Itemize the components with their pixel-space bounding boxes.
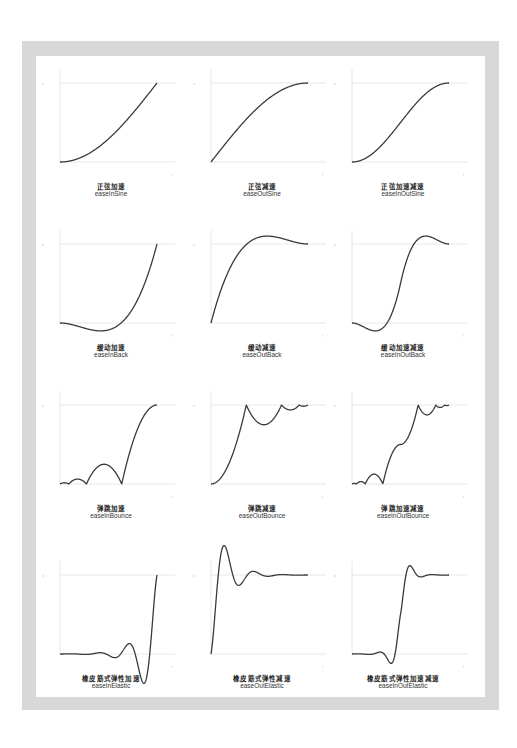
easing-curve xyxy=(211,236,308,323)
chart-plot: xt xyxy=(328,214,478,344)
x-axis-label: t xyxy=(463,173,464,177)
gallery-frame: xt正弦加速easeInSinext正弦减速easeOutSinext正弦加速减… xyxy=(22,41,499,710)
easing-curve xyxy=(211,405,308,484)
easing-curve xyxy=(211,83,308,162)
y-axis-label: x xyxy=(42,574,44,578)
x-axis-label: t xyxy=(322,173,323,177)
x-axis-label: t xyxy=(322,334,323,338)
chart-title-en: easeInOutSine xyxy=(328,190,478,197)
x-axis-label: t xyxy=(171,665,172,669)
chart-title-en: easeInSine xyxy=(36,190,186,197)
chart-title-en: easeInOutBack xyxy=(328,351,478,358)
chart-plot: xt xyxy=(187,545,337,675)
y-axis-label: x xyxy=(193,574,195,578)
y-axis-label: x xyxy=(193,404,195,408)
x-axis-label: t xyxy=(463,495,464,499)
y-axis-label: x xyxy=(42,404,44,408)
gallery-panel: xt正弦加速easeInSinext正弦减速easeOutSinext正弦加速减… xyxy=(36,56,485,697)
chart-title-en: easeInElastic xyxy=(36,682,186,689)
easing-curve xyxy=(211,546,308,654)
x-axis-label: t xyxy=(463,334,464,338)
x-axis-label: t xyxy=(171,334,172,338)
chart-plot: xt xyxy=(187,53,337,183)
chart-title-en: easeOutElastic xyxy=(187,682,337,689)
y-axis-label: x xyxy=(193,243,195,247)
chart-plot: xt xyxy=(328,53,478,183)
chart-title-en: easeInBounce xyxy=(36,512,186,519)
y-axis-label: x xyxy=(334,404,336,408)
chart-title-en: easeInBack xyxy=(36,351,186,358)
easing-curve xyxy=(352,236,449,331)
chart-title-en: easeOutSine xyxy=(187,190,337,197)
y-axis-label: x xyxy=(334,574,336,578)
chart-plot: xt xyxy=(36,545,186,675)
chart-plot: xt xyxy=(187,214,337,344)
x-axis-label: t xyxy=(322,495,323,499)
x-axis-label: t xyxy=(322,665,323,669)
easing-curve xyxy=(60,405,157,484)
x-axis-label: t xyxy=(171,495,172,499)
easing-curve xyxy=(352,83,449,162)
chart-title-en: easeInOutBounce xyxy=(328,512,478,519)
y-axis-label: x xyxy=(334,82,336,86)
y-axis-label: x xyxy=(334,243,336,247)
chart-plot: xt xyxy=(36,214,186,344)
easing-curve xyxy=(60,575,157,683)
y-axis-label: x xyxy=(42,243,44,247)
chart-plot: xt xyxy=(328,545,478,675)
chart-title-en: easeOutBounce xyxy=(187,512,337,519)
y-axis-label: x xyxy=(193,82,195,86)
easing-curve xyxy=(60,244,157,331)
easing-curve xyxy=(352,405,449,484)
chart-plot: xt xyxy=(328,375,478,505)
chart-plot: xt xyxy=(187,375,337,505)
y-axis-label: x xyxy=(42,82,44,86)
chart-plot: xt xyxy=(36,53,186,183)
x-axis-label: t xyxy=(463,665,464,669)
chart-title-en: easeInOutElastic xyxy=(328,682,478,689)
chart-plot: xt xyxy=(36,375,186,505)
x-axis-label: t xyxy=(171,173,172,177)
easing-curve xyxy=(60,83,157,162)
chart-title-en: easeOutBack xyxy=(187,351,337,358)
easing-curve xyxy=(352,566,449,664)
